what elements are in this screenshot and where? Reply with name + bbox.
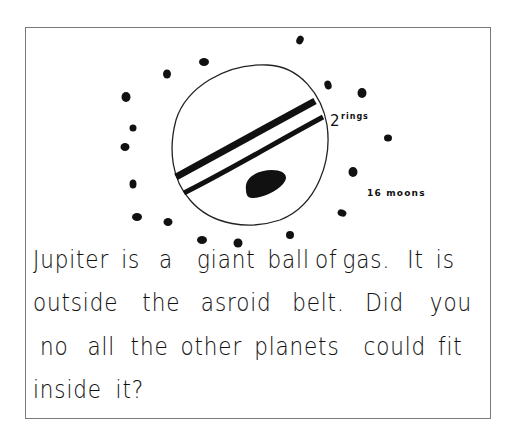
word: belt.	[292, 288, 344, 317]
moon-dot	[164, 218, 173, 226]
moon-dot	[295, 34, 305, 45]
word: giant	[197, 245, 255, 274]
word: no	[40, 332, 69, 361]
word: gas.	[343, 245, 391, 274]
rings-word-label: rings	[341, 112, 369, 121]
word: the	[142, 288, 180, 317]
moon-dot	[122, 92, 131, 102]
text-line-1: Jupiterisagiantballofgas.Itis	[33, 245, 467, 274]
word: It	[407, 245, 424, 274]
moon-dot	[197, 236, 207, 244]
moon-dot	[130, 180, 137, 189]
word: all	[87, 332, 115, 361]
text-line-3: noalltheotherplanetscouldfit	[40, 332, 475, 361]
moons	[121, 34, 393, 247]
moon-dot	[199, 58, 209, 66]
moon-dot	[163, 70, 171, 79]
word: it?	[116, 375, 144, 404]
rings-count-label: 2	[330, 112, 340, 130]
word: fit	[438, 332, 463, 361]
planet-outline	[172, 65, 328, 225]
word: is	[436, 245, 455, 274]
moon-dot	[358, 88, 367, 98]
word: is	[121, 245, 140, 274]
word: of	[315, 245, 337, 274]
word: Did	[365, 288, 404, 317]
moons-label: 16 moons	[367, 188, 426, 198]
word: asroid	[201, 288, 272, 317]
moon-dot	[337, 208, 348, 218]
ring-1	[176, 101, 315, 177]
word: other	[181, 332, 243, 361]
moon-dot	[286, 231, 294, 239]
moon-dot	[323, 80, 333, 91]
word: ball	[268, 245, 310, 274]
moon-dot	[384, 135, 392, 142]
word: the	[131, 332, 169, 361]
great-spot	[246, 170, 286, 198]
moon-dot	[130, 125, 137, 132]
word: a	[159, 245, 173, 274]
moon-dot	[349, 167, 358, 177]
moon-dot	[132, 213, 142, 221]
word: outside	[33, 288, 118, 317]
moon-dot	[121, 143, 130, 151]
word: Jupiter	[33, 245, 109, 274]
text-line-2: outsidetheasroidbelt.Didyou	[33, 288, 484, 317]
word: inside	[33, 375, 102, 404]
word: you	[430, 288, 472, 317]
text-line-4: insideit?	[33, 375, 156, 404]
word: planets	[254, 332, 339, 361]
word: could	[364, 332, 427, 361]
